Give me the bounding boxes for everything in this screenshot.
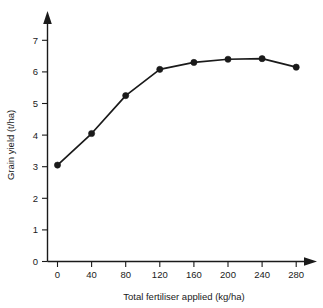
y-axis-arrow-icon <box>43 11 52 24</box>
x-axis-ticks <box>58 262 297 268</box>
x-tick-label-4: 160 <box>186 269 202 280</box>
y-tick-label-2: 2 <box>33 193 38 204</box>
chart-container: 0 1 2 3 4 5 6 7 0 40 80 120 160 200 <box>0 0 323 308</box>
data-point <box>157 66 163 72</box>
line-chart: 0 1 2 3 4 5 6 7 0 40 80 120 160 200 <box>0 0 323 308</box>
data-point <box>293 64 299 70</box>
series-line-grain-yield <box>58 59 297 165</box>
y-tick-label-0: 0 <box>33 256 38 267</box>
y-tick-label-6: 6 <box>33 66 38 77</box>
series-markers-grain-yield <box>54 56 299 169</box>
x-tick-label-7: 280 <box>288 269 304 280</box>
x-tick-label-0: 0 <box>55 269 60 280</box>
y-tick-label-1: 1 <box>33 224 38 235</box>
x-axis-tick-labels: 0 40 80 120 160 200 240 280 <box>55 269 304 280</box>
data-point <box>54 162 60 168</box>
x-tick-label-2: 80 <box>120 269 131 280</box>
y-tick-label-4: 4 <box>33 130 38 141</box>
data-point <box>191 59 197 65</box>
y-tick-label-3: 3 <box>33 161 38 172</box>
x-tick-label-3: 120 <box>152 269 168 280</box>
y-axis-tick-labels: 0 1 2 3 4 5 6 7 <box>33 35 38 267</box>
y-tick-label-5: 5 <box>33 98 38 109</box>
data-point <box>225 56 231 62</box>
x-tick-label-5: 200 <box>220 269 236 280</box>
x-axis-arrow-icon <box>304 257 317 266</box>
x-tick-label-6: 240 <box>254 269 270 280</box>
data-point <box>123 93 129 99</box>
data-point <box>89 130 95 136</box>
x-tick-label-1: 40 <box>86 269 97 280</box>
y-axis-ticks <box>42 40 48 261</box>
y-axis-title: Grain yield (t/ha) <box>5 110 16 180</box>
x-axis-title: Total fertiliser applied (kg/ha) <box>123 291 244 302</box>
y-tick-label-7: 7 <box>33 35 38 46</box>
data-point <box>259 56 265 62</box>
